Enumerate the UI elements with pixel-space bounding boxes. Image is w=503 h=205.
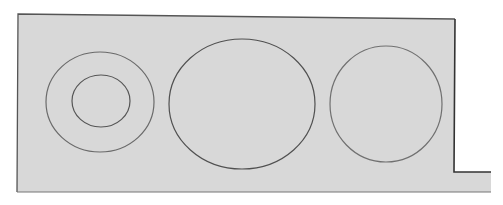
panel-border-right-notch bbox=[454, 19, 491, 172]
gray-panel bbox=[17, 14, 491, 192]
diagram-canvas bbox=[0, 0, 503, 205]
